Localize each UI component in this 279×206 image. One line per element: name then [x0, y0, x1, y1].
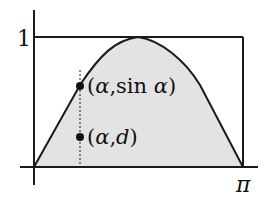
x-tick-label: π [235, 172, 251, 197]
diagram-svg: 1 π (α,sin α) (α,d) [0, 0, 279, 206]
area-under-curve [34, 37, 243, 167]
y-tick-label: 1 [17, 26, 31, 51]
point-d-label: (α,d) [87, 125, 138, 149]
point-sin-alpha [76, 82, 84, 90]
sine-area-diagram: 1 π (α,sin α) (α,d) [0, 0, 279, 206]
point-d [76, 133, 84, 141]
point-sin-alpha-label: (α,sin α) [87, 74, 176, 98]
